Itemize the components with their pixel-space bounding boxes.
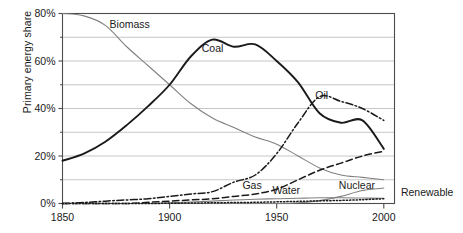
- gridlines-group: [63, 37, 395, 180]
- series-line-biomass: [63, 14, 384, 180]
- y-tick-label: 40%: [34, 102, 55, 114]
- y-tick-label: 20%: [34, 150, 55, 162]
- y-tick-label: 0%: [40, 197, 55, 209]
- energy-share-chart: Primary energy share 1850190019502000 0%…: [0, 0, 463, 233]
- x-tick-label: 1850: [51, 211, 75, 223]
- series-label-coal: Coal: [202, 42, 224, 54]
- series-label-nuclear: Nuclear: [339, 179, 376, 191]
- y-tick-label: 80%: [34, 7, 55, 19]
- x-axis-ticks: 1850190019502000: [51, 204, 396, 224]
- x-tick-label: 2000: [372, 211, 396, 223]
- y-axis-ticks: 0%20%40%60%80%: [34, 7, 62, 209]
- chart-plot-area: 1850190019502000 0%20%40%60%80% BiomassC…: [0, 0, 463, 233]
- y-tick-label: 60%: [34, 55, 55, 67]
- series-label-biomass: Biomass: [110, 18, 150, 30]
- series-label-water: Water: [272, 184, 300, 196]
- series-label-gas: Gas: [242, 179, 261, 191]
- x-tick-label: 1950: [265, 211, 289, 223]
- series-line-oil: [63, 96, 384, 204]
- series-label-oil: Oil: [315, 89, 328, 101]
- x-tick-label: 1900: [158, 211, 182, 223]
- series-label-renewable: Renewable: [401, 186, 454, 198]
- series-line-gas: [63, 151, 384, 203]
